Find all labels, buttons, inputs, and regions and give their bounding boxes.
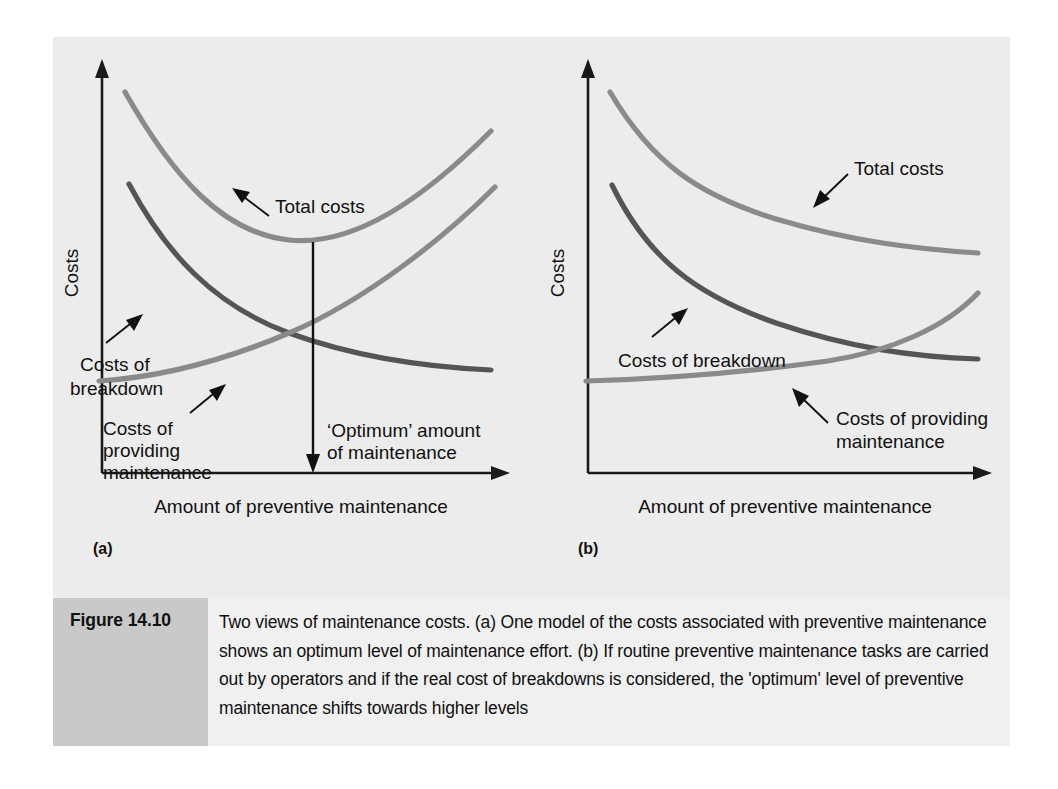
curve-total-costs-a <box>125 92 491 241</box>
label-costs-of-breakdown-a-line2: breakdown <box>70 378 163 399</box>
chart-b-y-axis <box>581 59 595 473</box>
chart-a: Total costs Costs of breakdown Costs of … <box>53 37 543 537</box>
label-costs-of-breakdown-a-line1: Costs of <box>80 354 150 375</box>
label-costs-of-breakdown-b: Costs of breakdown <box>618 350 786 371</box>
leader-total-costs-b <box>813 174 848 208</box>
leader-costs-of-providing-b <box>792 388 828 423</box>
label-optimum-a-line2: of maintenance <box>327 442 457 463</box>
chart-a-x-axis-title: Amount of preventive maintenance <box>154 496 448 517</box>
chart-b-x-axis <box>588 466 992 480</box>
figure-number: Figure 14.10 <box>70 610 205 631</box>
panel-letter-a: (a) <box>93 540 113 558</box>
label-costs-of-providing-a-line2: providing <box>103 440 180 461</box>
label-optimum-a-line1: ‘Optimum’ amount <box>327 420 481 441</box>
panel-letter-b: (b) <box>578 540 598 558</box>
chart-b-y-axis-title: Costs <box>547 249 568 298</box>
label-total-costs-b: Total costs <box>854 158 944 179</box>
leader-total-costs-a <box>232 188 269 216</box>
optimum-indicator-a <box>306 242 320 473</box>
leader-costs-of-breakdown-b <box>652 308 688 337</box>
leader-costs-of-providing-a <box>190 384 226 413</box>
label-costs-of-providing-b-line2: maintenance <box>836 431 945 452</box>
leader-costs-of-breakdown-a <box>106 314 143 343</box>
label-costs-of-providing-a-line1: Costs of <box>103 418 173 439</box>
label-costs-of-providing-a-line3: maintenance <box>103 462 212 483</box>
chart-b-x-axis-title: Amount of preventive maintenance <box>638 496 932 517</box>
label-total-costs-a: Total costs <box>275 196 365 217</box>
figure-root: Total costs Costs of breakdown Costs of … <box>0 0 1058 789</box>
label-costs-of-providing-b-line1: Costs of providing <box>836 408 988 429</box>
figure-caption: Two views of maintenance costs. (a) One … <box>219 608 994 722</box>
chart-a-y-axis <box>95 59 109 473</box>
chart-b: Total costs Costs of breakdown Costs of … <box>540 37 1020 537</box>
chart-a-y-axis-title: Costs <box>61 249 82 298</box>
